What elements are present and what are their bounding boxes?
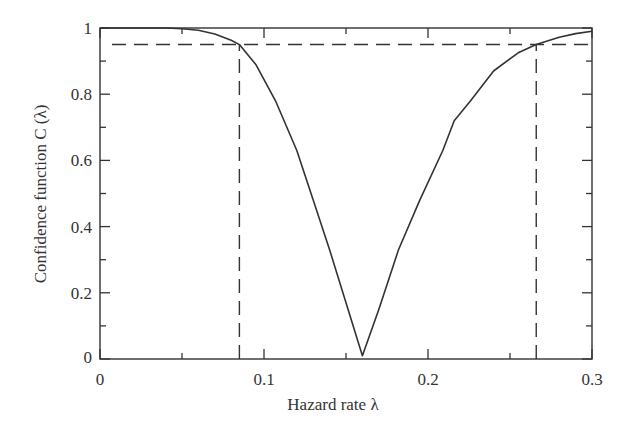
y-tick-label: 0.8	[71, 85, 92, 104]
x-tick-label: 0	[96, 370, 105, 389]
x-tick-label: 0.3	[581, 370, 602, 389]
y-tick-label: 0	[84, 348, 93, 367]
axes-frame	[100, 28, 592, 359]
x-tick-label: 0.2	[417, 370, 438, 389]
y-axis-title: Confidence function C (λ)	[31, 105, 50, 284]
x-axis-title: Hazard rate λ	[287, 395, 379, 414]
y-tick-label: 0.4	[71, 218, 93, 237]
plot-area	[100, 28, 592, 359]
y-tick-label: 0.6	[71, 151, 92, 170]
x-tick-label: 0.1	[253, 370, 274, 389]
tick-labels: 00.10.20.300.20.40.60.81	[71, 19, 603, 389]
chart: 00.10.20.300.20.40.60.81 Hazard rate λ C…	[0, 0, 629, 429]
axis-ticks	[100, 28, 592, 359]
series-line	[100, 28, 592, 356]
y-tick-label: 1	[84, 19, 93, 38]
y-tick-label: 0.2	[71, 284, 92, 303]
